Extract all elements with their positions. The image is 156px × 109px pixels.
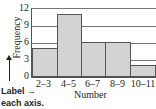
y-tick-0: 0 — [15, 71, 29, 81]
x-tick-10-11: 10–11 — [129, 79, 156, 89]
x-axis-label: Number — [74, 89, 107, 100]
gridline-9 — [32, 26, 156, 27]
x-tick-4-5: 4–5 — [56, 79, 81, 89]
bar-2-3 — [32, 48, 58, 77]
x-tick-8-9: 8–9 — [105, 79, 130, 89]
x-tick-6-7: 6–7 — [80, 79, 105, 89]
plot-area — [31, 8, 156, 78]
y-axis-label: Frequency — [11, 8, 22, 68]
annotation-line-1: Label → — [1, 86, 36, 96]
annotation-line-2: each axis. — [1, 98, 44, 108]
bar-6-7 — [81, 42, 106, 77]
arrow-up-icon — [9, 59, 10, 81]
bar-8-9 — [105, 42, 131, 77]
bar-10-11 — [130, 65, 156, 77]
bar-4-5 — [57, 14, 82, 77]
